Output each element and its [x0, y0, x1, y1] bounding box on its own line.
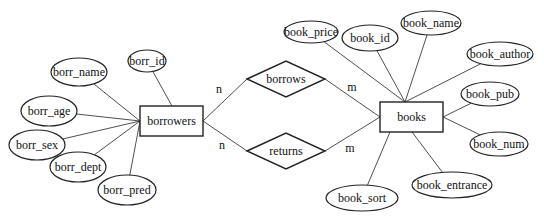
- entity-borrowers-label: borrowers: [147, 115, 196, 127]
- relationship-connector-line: [203, 79, 247, 121]
- relationship-borrows-label: borrows: [266, 73, 305, 85]
- attribute-borr-dept-label: borr_dept: [55, 161, 102, 173]
- attribute-book-id-label: book_id: [350, 32, 389, 44]
- cardinality-label: m: [345, 142, 354, 154]
- attribute-book-sort-label: book_sort: [338, 192, 386, 204]
- attribute-book-entrance-label: book_entrance: [417, 179, 488, 191]
- attribute-borr-sex-label: borr_sex: [16, 139, 58, 151]
- attribute-connector-line: [443, 103, 471, 117]
- attribute-connector-line: [412, 132, 442, 172]
- attribute-connector-line: [405, 35, 427, 102]
- entity-books-label: books: [397, 111, 426, 123]
- attribute-book-name-label: book_name: [403, 17, 459, 29]
- attribute-connector-line: [153, 71, 172, 106]
- attribute-borr-name-label: borr_name: [53, 66, 105, 78]
- attribute-book-pub-label: book_pub: [466, 88, 514, 100]
- attribute-book-num-label: book_num: [473, 138, 524, 150]
- relationship-returns-label: returns: [269, 145, 302, 157]
- attribute-borr-pred-label: borr_pred: [103, 184, 150, 196]
- attribute-connector-line: [76, 114, 140, 121]
- attribute-connector-line: [130, 121, 140, 175]
- attribute-connector-line: [443, 117, 480, 135]
- attribute-borr-id-label: borr_id: [129, 55, 164, 67]
- attribute-connector-line: [367, 132, 390, 185]
- er-diagram-canvas: borrowersbooksborrowsreturnsborr_idborr_…: [0, 0, 544, 218]
- attribute-book-author-label: book_author: [470, 48, 531, 60]
- relationship-connector-line: [203, 121, 247, 151]
- cardinality-label: n: [219, 139, 225, 151]
- attribute-connector-line: [377, 51, 405, 102]
- cardinality-label: m: [347, 81, 356, 93]
- cardinality-label: n: [216, 83, 222, 95]
- attribute-borr-age-label: borr_age: [28, 105, 71, 117]
- attribute-connector-line: [94, 84, 140, 121]
- attribute-book-price-label: book_price: [284, 26, 338, 38]
